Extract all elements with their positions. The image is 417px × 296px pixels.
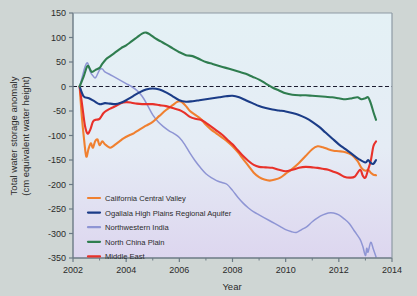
legend-label: North China Plain — [105, 238, 165, 247]
y-tick-label: 100 — [51, 33, 66, 43]
y-tick-label: -300 — [48, 229, 66, 239]
x-tick-label: 2012 — [329, 265, 349, 275]
plot-area-background — [73, 13, 392, 258]
y-tick-label: -150 — [48, 155, 66, 165]
x-tick-label: 2002 — [63, 265, 83, 275]
y-tick-label: -250 — [48, 204, 66, 214]
y-axis-title-line1: Total water storage anomaly — [8, 76, 19, 195]
x-tick-label: 2008 — [222, 265, 242, 275]
chart-figure: 150100500-50-100-150-200-250-300-350 200… — [0, 0, 417, 296]
x-tick-label: 2004 — [116, 265, 136, 275]
line-chart: 150100500-50-100-150-200-250-300-350 200… — [0, 0, 417, 296]
y-tick-label: 150 — [51, 8, 66, 18]
y-axis-title-line2: (cm equivalent water height) — [20, 76, 31, 195]
y-tick-label: -200 — [48, 180, 66, 190]
legend-label: Ogallala High Plains Regional Aquifer — [105, 209, 232, 218]
x-axis-title: Year — [222, 281, 241, 292]
y-tick-label: -100 — [48, 131, 66, 141]
y-tick-label: 50 — [56, 57, 66, 67]
legend-label: California Central Valley — [105, 194, 186, 203]
y-tick-label: -350 — [48, 253, 66, 263]
y-tick-label: -50 — [53, 106, 66, 116]
x-tick-label: 2006 — [169, 265, 189, 275]
legend-label: Northwestern India — [105, 223, 170, 232]
legend-label: Middle East — [105, 252, 146, 261]
y-tick-label: 0 — [61, 82, 66, 92]
x-tick-label: 2014 — [382, 265, 402, 275]
x-tick-label: 2010 — [276, 265, 296, 275]
